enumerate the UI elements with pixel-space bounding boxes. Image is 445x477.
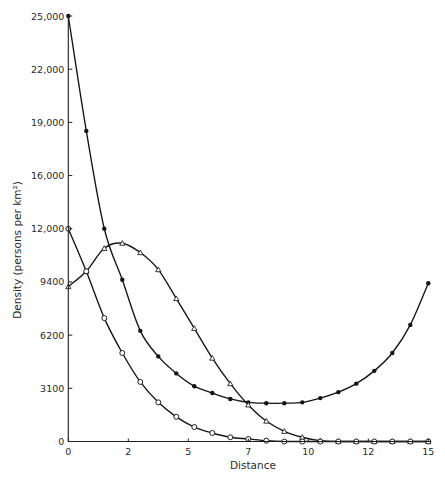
y-tick-label: 0 (58, 436, 64, 447)
open-circle-marker (84, 269, 89, 274)
filled-dot-marker (138, 329, 142, 333)
open-circle-marker (138, 379, 143, 384)
filled-dot-marker (174, 371, 178, 375)
series-lines-group (68, 16, 428, 442)
x-tick-label: 15 (422, 446, 434, 457)
filled-dot-marker (336, 390, 340, 394)
filled-dot-marker (408, 323, 412, 327)
filled-dot-marker (300, 400, 304, 404)
open-circle-marker (102, 316, 107, 321)
open-circle-marker (210, 430, 215, 435)
filled-dot-marker (228, 397, 232, 401)
y-tick-label: 6200 (40, 330, 64, 341)
x-tick-label: 7 (245, 446, 251, 457)
chart-figure: 031006200940012,00016,00019,00022,00025,… (0, 0, 445, 477)
series-line-3 (68, 229, 428, 442)
y-tick-label: 12,000 (31, 223, 64, 234)
open-circle-marker (156, 400, 161, 405)
y-axis-label: Density (persons per km²) (11, 181, 23, 319)
y-tick-label: 16,000 (31, 170, 64, 181)
filled-dot-marker (372, 369, 376, 373)
y-tick-label: 25,000 (31, 11, 64, 22)
filled-dot-marker (390, 351, 394, 355)
series-line-1 (68, 16, 428, 403)
x-tick-label: 0 (65, 446, 71, 457)
filled-dot-marker (192, 384, 196, 388)
x-axis-label: Distance (230, 459, 276, 471)
density-distance-chart: 031006200940012,00016,00019,00022,00025,… (0, 0, 445, 477)
open-circle-marker (192, 425, 197, 430)
y-tick-label: 3100 (40, 383, 64, 394)
x-tick-label: 12 (362, 446, 374, 457)
open-circle-marker (228, 435, 233, 440)
filled-dot-marker (102, 227, 106, 231)
filled-dot-marker (210, 391, 214, 395)
open-circle-marker (264, 438, 269, 443)
filled-dot-marker (120, 278, 124, 282)
y-tick-label: 19,000 (31, 117, 64, 128)
x-tick-label: 5 (185, 446, 191, 457)
x-tick-label: 2 (125, 446, 131, 457)
filled-dot-marker (264, 401, 268, 405)
filled-dot-marker (354, 381, 358, 385)
axes-group (68, 16, 431, 442)
filled-dot-marker (426, 281, 430, 285)
filled-dot-marker (318, 396, 322, 400)
y-tick-label: 22,000 (31, 64, 64, 75)
series-line-2 (68, 243, 428, 441)
y-tick-label: 9400 (40, 276, 64, 287)
open-circle-marker (174, 414, 179, 419)
open-circle-marker (120, 350, 125, 355)
filled-dot-marker (282, 401, 286, 405)
filled-dot-marker (84, 129, 88, 133)
filled-dot-marker (156, 354, 160, 358)
x-tick-label: 10 (302, 446, 314, 457)
data-markers-group (66, 14, 431, 444)
